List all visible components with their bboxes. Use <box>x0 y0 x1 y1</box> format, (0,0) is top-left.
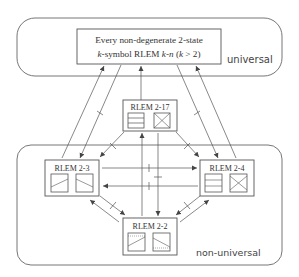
top-box-line1: Every non-degenerate 2-state <box>95 35 203 45</box>
node-label: RLEM 2-17 <box>131 103 170 112</box>
node-rlem-2-3: RLEM 2-3 <box>45 160 99 196</box>
node-rlem-2-4: RLEM 2-4 <box>200 160 254 196</box>
node-rlem-2-2: RLEM 2-2 <box>123 218 177 255</box>
non-universal-label: non-universal <box>196 247 261 258</box>
node-label: RLEM 2-3 <box>55 164 90 173</box>
edges <box>62 65 236 222</box>
universal-label: universal <box>227 54 273 65</box>
node-label: RLEM 2-2 <box>133 222 168 231</box>
node-rlem-2-17: RLEM 2-17 <box>123 100 177 131</box>
node-label: RLEM 2-4 <box>210 164 245 173</box>
rlem-hierarchy-diagram: Every non-degenerate 2-state k-symbol RL… <box>0 0 299 277</box>
top-box-line2: k-symbol RLEM k-n (k > 2) <box>98 49 201 59</box>
